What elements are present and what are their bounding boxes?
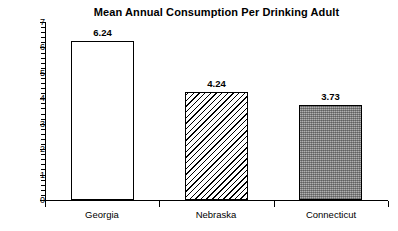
x-axis-tick-mark (388, 201, 389, 207)
chart-title: Mean Annual Consumption Per Drinking Adu… (45, 6, 388, 19)
y-axis-tick-label: 5 (9, 69, 45, 78)
bar-value-label: 3.73 (285, 92, 376, 102)
y-axis-minor-tick-mark (41, 53, 45, 54)
y-axis-tick-label: 6 (9, 43, 45, 52)
y-axis-minor-tick-mark (41, 32, 45, 33)
y-axis-tick-label: 7 (9, 18, 45, 27)
y-axis-minor-tick-mark (41, 114, 45, 115)
y-axis-minor-tick-mark (41, 88, 45, 89)
y-axis-minor-tick-mark (41, 180, 45, 181)
x-axis-tick-mark (159, 201, 160, 207)
y-axis-minor-tick-mark (41, 27, 45, 28)
bar-georgia (71, 41, 134, 200)
y-axis-minor-tick-mark (41, 103, 45, 104)
bar-chart: Mean Annual Consumption Per Drinking Adu… (0, 0, 398, 231)
y-axis-minor-tick-mark (41, 164, 45, 165)
y-axis-tick-label: 0 (9, 196, 45, 205)
bar-connecticut (299, 105, 362, 200)
y-axis-tick-label: 1 (9, 171, 45, 180)
y-axis-minor-tick-mark (41, 37, 45, 38)
x-axis-line (45, 200, 388, 201)
y-axis-minor-tick-mark (41, 185, 45, 186)
y-axis-minor-tick-mark (41, 78, 45, 79)
y-axis-tick-label: 2 (9, 145, 45, 154)
x-axis-category-label-connecticut: Connecticut (274, 209, 388, 220)
y-axis-minor-tick-mark (41, 139, 45, 140)
bar-value-label: 6.24 (57, 28, 148, 38)
bar-nebraska (185, 92, 248, 200)
x-axis-tick-mark (274, 201, 275, 207)
y-axis-minor-tick-mark (41, 83, 45, 84)
y-axis-tick-label: 4 (9, 94, 45, 103)
x-axis-category-label-nebraska: Nebraska (159, 209, 273, 220)
x-axis-tick-mark (45, 201, 46, 207)
y-axis-line (45, 22, 46, 201)
y-axis-minor-tick-mark (41, 108, 45, 109)
x-axis-category-label-georgia: Georgia (45, 209, 159, 220)
bar-value-label: 4.24 (171, 79, 262, 89)
y-axis-minor-tick-mark (41, 190, 45, 191)
y-axis-minor-tick-mark (41, 58, 45, 59)
y-axis-minor-tick-mark (41, 154, 45, 155)
y-axis-tick-label: 3 (9, 120, 45, 129)
y-axis-minor-tick-mark (41, 134, 45, 135)
y-axis-minor-tick-mark (41, 63, 45, 64)
y-axis-minor-tick-mark (41, 159, 45, 160)
y-axis-minor-tick-mark (41, 129, 45, 130)
